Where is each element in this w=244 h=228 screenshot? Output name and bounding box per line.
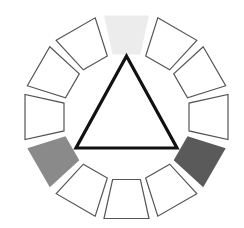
triad-triangle [76,56,177,148]
wheel-segment [25,95,64,140]
wheel-segment-highlighted [104,16,149,55]
color-wheel-diagram [0,0,244,228]
wheel-segment [104,180,149,219]
wheel-segment [189,95,228,140]
wheel-segments [25,16,228,219]
